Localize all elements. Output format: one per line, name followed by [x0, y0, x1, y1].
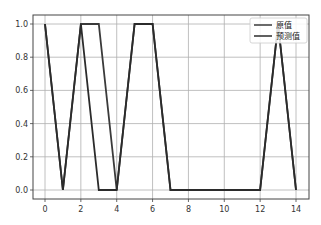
y-tick-label: 0.6 — [15, 86, 28, 95]
x-tick-label: 4 — [114, 205, 119, 214]
x-tick-label: 2 — [78, 205, 83, 214]
x-tick-label: 6 — [150, 205, 155, 214]
y-axis-ticks: 0.00.20.40.60.81.0 — [15, 20, 33, 195]
x-axis-ticks: 02468101214 — [42, 199, 301, 214]
y-tick-label: 0.8 — [15, 53, 28, 62]
y-tick-label: 0.2 — [15, 153, 28, 162]
x-tick-label: 12 — [255, 205, 265, 214]
x-tick-label: 8 — [186, 205, 191, 214]
legend: 原值 预测值 — [250, 18, 307, 43]
line-chart: 02468101214 0.00.20.40.60.81.0 原值 预测值 — [0, 0, 321, 225]
x-tick-label: 14 — [291, 205, 301, 214]
x-tick-label: 0 — [42, 205, 47, 214]
y-tick-label: 0.4 — [15, 120, 28, 129]
legend-label-predicted: 预测值 — [276, 31, 300, 41]
y-tick-label: 0.0 — [15, 186, 28, 195]
x-tick-label: 10 — [219, 205, 229, 214]
legend-label-original: 原值 — [276, 20, 292, 30]
y-tick-label: 1.0 — [15, 20, 28, 29]
